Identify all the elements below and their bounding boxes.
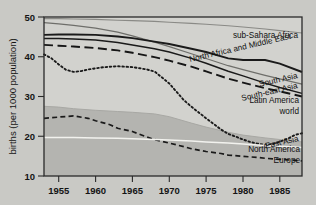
y-tick-label-50: 50 [24,12,35,23]
y-tick-label-40: 40 [24,51,35,62]
series-label-world: world [278,107,299,116]
x-tick-label-1960: 1960 [85,185,106,196]
y-tick-label-20: 20 [24,131,35,142]
x-tick-label-1965: 1965 [122,185,144,196]
y-axis-title: births (per 1000 population) [7,38,18,154]
y-tick-label-10: 10 [24,171,35,182]
x-tick-label-1980: 1980 [232,185,253,196]
x-tick-label-1970: 1970 [159,185,180,196]
x-tick-label-1975: 1975 [196,185,218,196]
series-label-latin-america: Latin America [249,96,299,105]
chart-figure: 50 40 30 20 10 1955 1960 1965 1970 1975 … [0,0,316,205]
y-tick-label-30: 30 [24,91,35,102]
series-label-north-america: North America [248,145,300,154]
x-tick-label-1955: 1955 [48,185,70,196]
series-label-europe: Europe [274,156,301,165]
births-line-chart: 50 40 30 20 10 1955 1960 1965 1970 1975 … [0,0,316,205]
x-tick-label-1985: 1985 [269,185,291,196]
